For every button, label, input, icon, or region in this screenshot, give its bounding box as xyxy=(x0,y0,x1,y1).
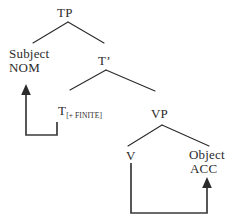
node-label-t-head: T[+ FINITE] xyxy=(58,104,102,118)
accusative-case-arrowhead xyxy=(202,177,212,188)
node-label-object-case-acc: ACC xyxy=(190,162,217,176)
branch-vp-to-v xyxy=(128,125,162,146)
tp-branches xyxy=(33,22,104,43)
node-label-object: Object xyxy=(189,148,225,162)
vp-branches xyxy=(128,125,209,146)
nominative-case-arrow xyxy=(21,84,57,135)
node-label-vp: VP xyxy=(151,107,168,121)
branch-tbar-to-vp xyxy=(106,70,155,91)
node-label-t-bar: T’ xyxy=(98,54,111,68)
node-label-subject: Subject xyxy=(9,47,49,61)
syntax-tree-canvas xyxy=(0,0,241,223)
node-label-t-head-base: T xyxy=(58,103,66,118)
node-label-tp: TP xyxy=(57,6,73,20)
nominative-case-arrow-shaft xyxy=(26,92,57,135)
nominative-case-arrowhead xyxy=(21,84,31,95)
tbar-branches xyxy=(70,70,155,91)
node-label-subject-case-nom: NOM xyxy=(9,61,40,75)
branch-vp-to-object xyxy=(162,125,209,146)
branch-tp-to-subject xyxy=(33,22,68,43)
branch-tbar-to-t xyxy=(70,70,106,90)
node-label-v: V xyxy=(126,149,136,163)
node-label-t-head-feature-subscript: [+ FINITE] xyxy=(66,111,102,120)
branch-tp-to-tbar xyxy=(68,22,104,43)
syntax-tree-figure: TP T’ Subject NOM T[+ FINITE] VP V Objec… xyxy=(0,0,241,223)
